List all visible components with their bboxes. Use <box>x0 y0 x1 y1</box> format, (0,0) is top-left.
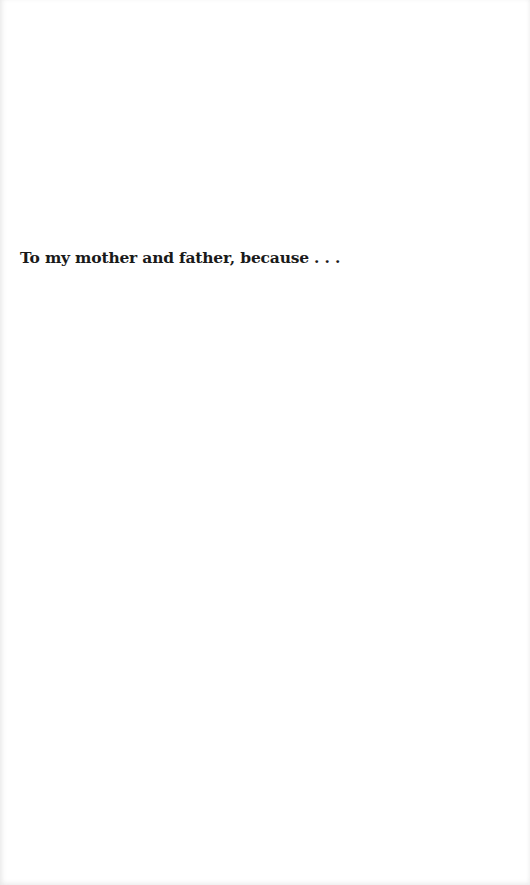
dedication-text: To my mother and father, because . . . <box>20 248 340 267</box>
book-page: To my mother and father, because . . . <box>0 0 530 885</box>
